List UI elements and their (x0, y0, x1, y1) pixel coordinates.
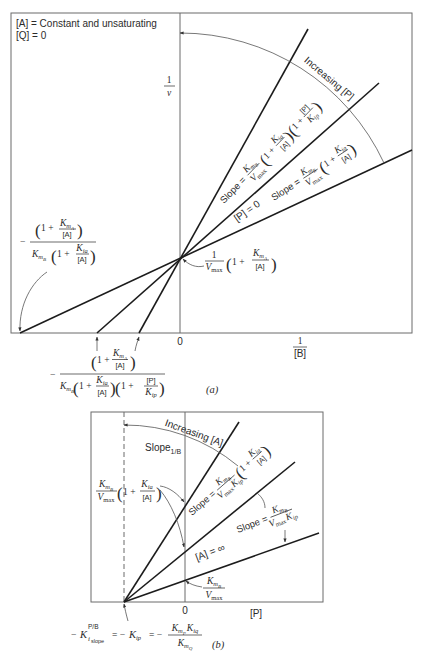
one-plus: 1 + (41, 223, 53, 233)
y-intercept-label: KmB Vmax ( 1 + Kia [A] ) (96, 479, 162, 503)
eq-minus: = − (112, 630, 125, 640)
subsub: B (43, 257, 46, 262)
line-p-high (139, 29, 308, 333)
conc-a: [A] (97, 388, 106, 397)
k-ma: KmA (252, 248, 268, 261)
y-axis-label: Slope1/B (145, 442, 181, 455)
paren-close: ) (271, 255, 277, 274)
k-ia: Kia (140, 479, 152, 490)
pointer-arrow-icon (124, 604, 128, 621)
pointer-arrow-icon (135, 337, 139, 351)
sub: max (211, 266, 223, 273)
kinetics-figure: [A] = Constant and unsaturating [Q] = 0 … (0, 0, 428, 659)
k-ia: Kia (75, 243, 87, 254)
subscript: i (88, 635, 90, 643)
x-label-num: 1 (298, 336, 303, 346)
plot-frame (11, 13, 412, 333)
line-label-a-infinity: [A] = ∞ (194, 542, 227, 563)
line-label-p-zero: [P] = 0 (232, 198, 263, 224)
k-mb: KmB (98, 479, 113, 492)
line-p-mid (97, 83, 379, 333)
conc-a: [A] (115, 361, 124, 370)
pointer-arrow-icon (186, 581, 202, 587)
condition-a: [A] = Constant and unsaturating (16, 18, 157, 29)
conc-p: [P] (146, 376, 155, 385)
y-label-den: v (167, 88, 172, 98)
one-plus: 1 + (123, 487, 135, 497)
paren-close: ) (159, 379, 165, 398)
paren-close: ) (90, 247, 96, 266)
leader-line (257, 493, 265, 508)
sub: ip (136, 634, 142, 641)
k: K (79, 629, 88, 640)
slope-label-upper: Slope = KmB VmaxKip ( 1 + Kia [A] ) (183, 439, 274, 523)
k-mb: KmB (59, 381, 74, 394)
k-mq: KmQ (177, 638, 193, 651)
y-label-num: 1 (167, 75, 172, 85)
k-ma: KmA (112, 348, 128, 361)
origin-label: 0 (182, 605, 188, 616)
one-plus: 1 + (57, 249, 69, 259)
sub: ia (83, 247, 88, 254)
one: 1 (212, 250, 217, 260)
conc-a: [A] (77, 255, 86, 264)
sub: max (311, 173, 325, 185)
k-mp-k-iq: KmPKiq (171, 623, 199, 636)
panel-a: [A] = Constant and unsaturating [Q] = 0 … (11, 13, 412, 398)
x-axis-label: 1 [B] (293, 336, 307, 359)
origin-label: 0 (177, 336, 183, 347)
one-plus: 1 + (79, 381, 91, 391)
one-plus: 1 + (97, 355, 109, 365)
one-plus: 1 + (232, 257, 244, 267)
arc-label-increasing-p: Increasing [P] (302, 54, 356, 102)
sub: iq (193, 627, 199, 634)
k-ia: Kia (95, 375, 107, 386)
sub: ia (103, 379, 108, 386)
y-intercept-a-infinity-label: KmB Vmax (203, 576, 225, 601)
slope-prefix: Slope = (186, 488, 218, 518)
ki-slope-formula: − K P/B i slope = − Kip = − KmPKiq KmQ (71, 623, 202, 651)
v-max: Vmax (97, 492, 115, 503)
x-label-den: [B] (294, 348, 306, 359)
superscript: P/B (88, 623, 98, 630)
eq-minus: = − (149, 630, 162, 640)
y-intercept-label: 1 Vmax ( 1 + KmA [A] ) (205, 248, 277, 274)
paren-close: ) (130, 353, 136, 372)
v-max: Vmax (205, 590, 223, 601)
pointer-arrow-icon (160, 490, 184, 547)
k-mb: KmB (206, 576, 221, 589)
minus: − (71, 630, 76, 640)
one-plus: 1 + (121, 381, 133, 391)
line-a-low (124, 422, 239, 602)
minus: − (20, 237, 25, 247)
k-ip: Kip (144, 387, 157, 398)
sub: ip (152, 391, 158, 398)
line-p-zero (20, 150, 412, 333)
sub: max (211, 594, 223, 601)
panel-tag-b: (b) (212, 639, 225, 651)
paren-close: ) (308, 98, 326, 115)
panel-tag-a: (a) (206, 384, 219, 396)
slope-prefix: Slope = (218, 174, 249, 205)
minus: − (50, 370, 55, 380)
k-ip: Kip (128, 629, 142, 641)
k-ma: KmA (59, 218, 75, 231)
paren-close: ) (156, 484, 162, 503)
x-intercept-formula-p0: − ( 1 + KmA [A] ) KmB ( 1 + Kia [A] ) (20, 218, 96, 266)
x-axis-label: [P] (250, 608, 262, 619)
slope-prefix: Slope = (269, 176, 303, 203)
subsub: Q (189, 646, 193, 651)
y-axis-label: 1 v (164, 75, 175, 98)
slope-word: Slope (145, 442, 171, 453)
pointer-arrow-icon (183, 259, 204, 267)
sub: max (103, 496, 115, 503)
sub: ip (292, 512, 300, 521)
v-max: Vmax (205, 262, 223, 273)
k-mb: KmB (31, 249, 46, 262)
slope-sub: 1/B (171, 448, 182, 455)
panel-b: Increasing [A] Slope1/B KmB Vmax ( 1 + K… (71, 412, 323, 651)
conc-a: [A] (62, 230, 71, 239)
condition-q: [Q] = 0 (16, 30, 47, 41)
conc-a: [A] (255, 262, 264, 271)
arc-label-increasing-a: Increasing [A] (164, 417, 225, 448)
